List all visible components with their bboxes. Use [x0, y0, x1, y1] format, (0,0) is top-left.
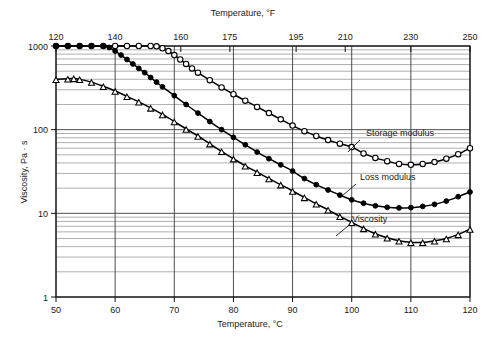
data-marker	[361, 151, 366, 156]
data-marker	[77, 44, 82, 49]
data-marker	[219, 85, 224, 90]
data-marker	[420, 204, 425, 209]
annotation-viscosity: Viscosity	[352, 214, 388, 224]
data-marker	[408, 162, 413, 167]
data-marker	[432, 159, 437, 164]
top-tick-label: 120	[48, 32, 63, 42]
data-marker	[361, 201, 366, 206]
data-marker	[278, 117, 283, 122]
data-marker	[290, 123, 295, 128]
bottom-tick-label: 60	[110, 305, 120, 315]
data-marker	[444, 199, 449, 204]
data-marker	[183, 61, 188, 66]
top-tick-label: 250	[462, 32, 477, 42]
bottom-tick-label: 120	[462, 305, 477, 315]
data-marker	[219, 127, 224, 132]
data-marker	[373, 155, 378, 160]
y-tick-label: 1	[43, 293, 48, 303]
data-marker	[172, 52, 177, 57]
data-marker	[278, 162, 283, 167]
data-marker	[89, 44, 94, 49]
annotation-storage-modulus: Storage modulus	[366, 128, 435, 138]
data-marker	[166, 48, 171, 53]
data-marker	[142, 70, 147, 75]
data-marker	[184, 102, 189, 107]
data-marker	[178, 57, 183, 62]
bottom-tick-label: 50	[51, 305, 61, 315]
annotation-loss-modulus: Loss modulus	[360, 172, 416, 182]
data-marker	[154, 44, 159, 49]
viscosity-chart: 1201401601751952102302505060708090100110…	[0, 0, 487, 338]
curve-storage-modulus	[56, 46, 470, 165]
figure-container: 1201401601751952102302505060708090100110…	[0, 0, 487, 338]
annotation-leader-line	[336, 226, 348, 236]
data-marker	[101, 44, 106, 49]
data-marker	[207, 78, 212, 83]
top-tick-label: 210	[338, 32, 353, 42]
data-marker	[136, 43, 141, 48]
data-marker	[113, 49, 118, 54]
data-marker	[314, 182, 319, 187]
data-marker	[468, 190, 473, 195]
y-axis-title: Viscosity, Pa · s	[19, 140, 29, 204]
data-marker	[302, 176, 307, 181]
data-marker	[373, 203, 378, 208]
data-marker	[325, 137, 330, 142]
data-markers	[53, 43, 473, 245]
bottom-tick-label: 100	[344, 305, 359, 315]
bottom-tick-label: 80	[228, 305, 238, 315]
data-marker	[455, 151, 460, 156]
data-marker	[130, 62, 135, 67]
data-marker	[302, 128, 307, 133]
data-marker	[254, 104, 259, 109]
data-marker	[196, 111, 201, 116]
data-marker	[396, 161, 401, 166]
data-marker	[266, 110, 271, 115]
data-marker	[397, 206, 402, 211]
data-marker	[243, 98, 248, 103]
data-marker	[195, 70, 200, 75]
data-marker	[255, 150, 260, 155]
data-marker	[154, 80, 159, 85]
data-marker	[119, 53, 124, 58]
data-marker	[231, 92, 236, 97]
data-marker	[124, 43, 129, 48]
top-tick-label: 160	[173, 32, 188, 42]
data-marker	[408, 205, 413, 210]
top-tick-label: 175	[222, 32, 237, 42]
y-tick-label: 10	[38, 209, 48, 219]
bottom-tick-label: 70	[169, 305, 179, 315]
data-marker	[148, 75, 153, 80]
data-marker	[420, 161, 425, 166]
data-marker	[456, 194, 461, 199]
data-marker	[314, 133, 319, 138]
data-marker	[267, 156, 272, 161]
data-marker	[112, 43, 117, 48]
curve-loss-modulus	[56, 46, 470, 208]
data-marker	[125, 57, 130, 62]
bottom-axis-title: Temperature, °C	[217, 319, 283, 329]
data-marker	[160, 46, 165, 51]
top-tick-label: 140	[108, 32, 123, 42]
data-marker	[337, 193, 342, 198]
data-marker	[432, 202, 437, 207]
y-tick-label: 1000	[28, 42, 48, 52]
top-tick-label: 230	[403, 32, 418, 42]
data-marker	[160, 84, 165, 89]
data-marker	[326, 188, 331, 193]
top-axis-title: Temperature, °F	[211, 8, 276, 18]
minor-gridlines	[56, 50, 470, 272]
data-marker	[148, 43, 153, 48]
data-marker	[385, 158, 390, 163]
data-marker	[136, 66, 141, 71]
data-marker	[385, 205, 390, 210]
bottom-tick-label: 90	[288, 305, 298, 315]
data-marker	[189, 66, 194, 71]
data-marker	[467, 146, 472, 151]
data-marker	[54, 44, 59, 49]
data-marker	[107, 45, 112, 50]
annotation-leader-line	[342, 184, 356, 196]
data-marker	[172, 93, 177, 98]
bottom-tick-label: 110	[404, 305, 418, 315]
data-marker	[349, 197, 354, 202]
